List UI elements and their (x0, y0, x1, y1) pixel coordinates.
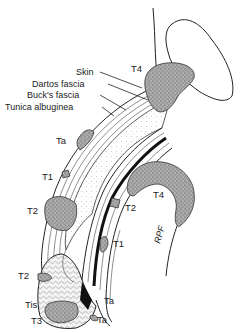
stage-t4-top: T4 (131, 63, 142, 74)
stage-t4-right: T4 (153, 189, 164, 200)
stage-t1-upper: T1 (42, 171, 53, 182)
stage-ta-lower-2: Ta (97, 314, 108, 325)
tumor-ta-upper (77, 130, 94, 150)
stage-t1-lower: T1 (113, 238, 124, 249)
stage-t2-right: T2 (125, 202, 136, 213)
artist-signature: RPF (152, 224, 166, 244)
label-skin: Skin (76, 67, 94, 77)
label-tunica-albuginea: Tunica albuginea (5, 102, 73, 112)
stage-t2-glans: T2 (18, 270, 29, 281)
label-dartos-fascia: Dartos fascia (32, 79, 85, 89)
stage-tis: Tis (25, 299, 38, 310)
stage-t3: T3 (31, 315, 42, 326)
stage-t2-upper: T2 (27, 205, 38, 216)
stage-ta-lower-1: Ta (104, 295, 115, 306)
staging-diagram: RPF Skin Dartos fascia Buck's fascia Tun… (0, 0, 242, 333)
tumor-t3 (45, 301, 78, 323)
stage-ta-upper: Ta (56, 135, 67, 146)
label-bucks-fascia: Buck's fascia (27, 90, 79, 100)
tumor-t2-upper (45, 197, 77, 231)
tumor-t4-top (145, 63, 195, 112)
tumor-t1-upper (62, 170, 70, 178)
tumor-t2-right (110, 198, 120, 208)
tumor-t1-lower (100, 237, 108, 252)
